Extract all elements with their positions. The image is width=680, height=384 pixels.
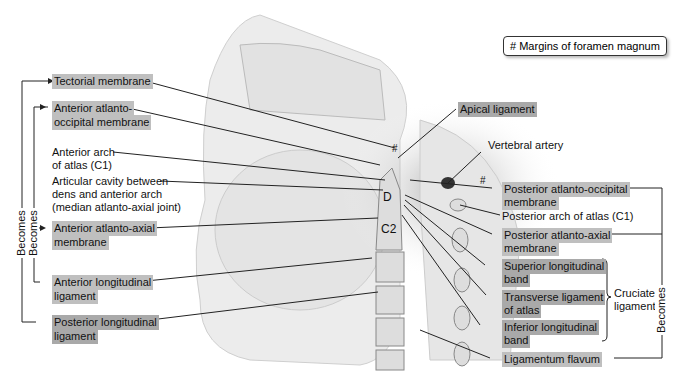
becomes-outer-left: Becomes <box>15 208 27 258</box>
label-apical-ligament: Apical ligament <box>458 102 537 117</box>
axis-c2-mark: C2 <box>381 222 396 236</box>
label-cruciate-1: Cruciate <box>614 287 655 300</box>
legend-text: Margins of foramen magnum <box>519 40 660 52</box>
label-cruciate-2: ligament <box>614 300 656 313</box>
label-anterior-longitudinal-1: Anterior longitudinal <box>52 275 153 290</box>
legend-symbol: # <box>510 40 516 52</box>
foramen-margin-mark-top: # <box>392 143 398 154</box>
becomes-right: Becomes <box>655 285 667 335</box>
label-tectorial-membrane: Tectorial membrane <box>52 74 153 89</box>
label-anterior-longitudinal-2: ligament <box>52 289 98 304</box>
label-anterior-arch-2: of atlas (C1) <box>52 159 112 172</box>
label-anterior-atlanto-occipital-1: Anterior atlanto- <box>52 101 134 116</box>
label-transverse-ligament-2: of atlas <box>502 303 541 318</box>
becomes-inner-left: Becomes <box>27 208 39 258</box>
label-posterior-atlanto-occipital-2: membrane <box>502 195 559 210</box>
label-posterior-arch-atlas: Posterior arch of atlas (C1) <box>502 210 633 223</box>
dens-mark: D <box>383 190 392 204</box>
label-posterior-longitudinal-2: ligament <box>52 329 98 344</box>
label-posterior-atlanto-axial-2: membrane <box>502 241 559 256</box>
label-articular-cavity-3: (median atlanto-axial joint) <box>52 201 181 214</box>
legend-box: # Margins of foramen magnum <box>503 36 667 56</box>
label-vertebral-artery: Vertebral artery <box>488 139 563 152</box>
label-anterior-atlanto-axial-1: Anterior atlanto-axial <box>52 221 157 236</box>
label-ligamentum-flavum: Ligamentum flavum <box>502 352 602 367</box>
label-superior-longitudinal-2: band <box>502 272 530 287</box>
label-anterior-atlanto-axial-2: membrane <box>52 235 109 250</box>
foramen-margin-mark-back: # <box>480 175 486 186</box>
label-articular-cavity-2: dens and anterior arch <box>52 188 162 201</box>
label-anterior-arch-1: Anterior arch <box>52 146 115 159</box>
label-inferior-longitudinal-2: band <box>502 333 530 348</box>
label-anterior-atlanto-occipital-2: occipital membrane <box>52 115 151 130</box>
label-articular-cavity-1: Articular cavity between <box>52 175 168 188</box>
label-posterior-longitudinal-1: Posterior longitudinal <box>52 315 159 330</box>
